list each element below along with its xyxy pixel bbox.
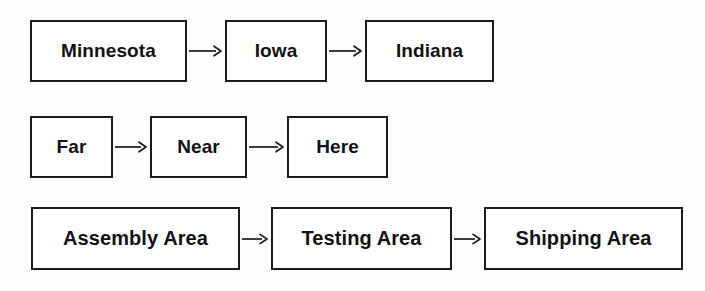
flow-row-areas: Assembly Area Testing Area Shipping Area xyxy=(31,207,683,270)
arrow-right-icon xyxy=(240,207,271,270)
arrow-right-icon xyxy=(113,116,150,178)
arrow-right-icon xyxy=(247,116,287,178)
flow-node-label: Iowa xyxy=(255,40,298,62)
flow-node-label: Indiana xyxy=(396,40,463,62)
flow-node-label: Shipping Area xyxy=(515,227,651,250)
flow-node-label: Minnesota xyxy=(61,40,156,62)
flow-row-distance: Far Near Here xyxy=(30,116,388,178)
arrow-right-icon xyxy=(187,20,225,82)
arrow-right-icon xyxy=(327,20,365,82)
flow-node-assembly-area[interactable]: Assembly Area xyxy=(31,207,240,270)
arrow-right-icon xyxy=(452,207,484,270)
flowchart-canvas: Minnesota Iowa Indiana Far xyxy=(0,0,705,291)
flow-node-shipping-area[interactable]: Shipping Area xyxy=(484,207,683,270)
flow-node-label: Far xyxy=(57,136,87,158)
flow-node-indiana[interactable]: Indiana xyxy=(365,20,494,82)
flow-node-label: Testing Area xyxy=(301,227,421,250)
flow-node-label: Here xyxy=(316,136,359,158)
flow-node-far[interactable]: Far xyxy=(30,116,113,178)
flow-node-minnesota[interactable]: Minnesota xyxy=(30,20,187,82)
flow-row-states: Minnesota Iowa Indiana xyxy=(30,20,494,82)
flow-node-here[interactable]: Here xyxy=(287,116,388,178)
flow-node-label: Near xyxy=(177,136,220,158)
flow-node-testing-area[interactable]: Testing Area xyxy=(271,207,452,270)
flow-node-label: Assembly Area xyxy=(63,227,208,250)
flow-node-near[interactable]: Near xyxy=(150,116,247,178)
flow-node-iowa[interactable]: Iowa xyxy=(225,20,327,82)
